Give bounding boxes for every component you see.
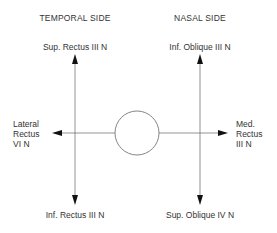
inf-rectus-label: Inf. Rectus III N — [46, 210, 105, 220]
med-rectus-label: Med. Rectus III N — [236, 119, 262, 149]
lateral-rectus-label: Lateral Rectus VI N — [13, 119, 39, 149]
nasal-side-header: NASAL SIDE — [174, 13, 226, 23]
up-arrow-icon — [72, 54, 78, 64]
eye-muscle-diagram — [0, 0, 277, 233]
down-arrow-icon — [72, 195, 78, 205]
right-arrow-icon — [218, 130, 228, 136]
up-arrow-icon — [197, 54, 203, 64]
lateral-rectus-line-1: Lateral — [13, 119, 39, 129]
lateral-rectus-line-3: VI N — [13, 139, 39, 149]
inf-oblique-label: Inf. Oblique III N — [169, 42, 230, 52]
sup-rectus-label: Sup. Rectus III N — [43, 42, 107, 52]
sup-oblique-label: Sup. Oblique IV N — [166, 210, 234, 220]
med-rectus-line-1: Med. — [236, 119, 262, 129]
eye-circle — [115, 111, 159, 155]
left-arrow-icon — [52, 130, 62, 136]
lateral-rectus-line-2: Rectus — [13, 129, 39, 139]
med-rectus-line-2: Rectus — [236, 129, 262, 139]
temporal-side-header: TEMPORAL SIDE — [39, 13, 110, 23]
down-arrow-icon — [197, 195, 203, 205]
med-rectus-line-3: III N — [236, 139, 262, 149]
